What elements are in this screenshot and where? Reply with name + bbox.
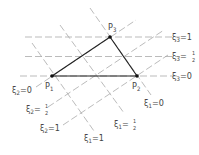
label-xi2-half: ξ2=: [26, 104, 41, 115]
label-xi3-half-num: 1: [192, 50, 195, 56]
xi3-isolines: [20, 37, 180, 76]
label-xi3-0: ξ3=0: [172, 71, 192, 82]
label-p2: P2: [132, 81, 140, 92]
triangle-area-coordinates-diagram: P1 P2 P3 ξ3=1 ξ3= 1 2 ξ3=0 ξ2=0 ξ2= 1 2 …: [0, 0, 199, 155]
label-xi2-0: ξ2=0: [12, 85, 32, 96]
label-xi1-0: ξ1=0: [144, 98, 164, 109]
label-xi3-half: ξ3=: [172, 51, 187, 62]
label-xi3-1: ξ3=1: [172, 32, 192, 43]
vertex-p1: [50, 74, 54, 78]
label-xi1-1: ξ1=1: [84, 133, 104, 144]
label-xi2-half-num: 1: [45, 103, 48, 109]
label-xi1-half-num: 1: [133, 118, 136, 124]
label-p1: P1: [45, 81, 53, 92]
label-xi1-half-den: 2: [133, 125, 136, 131]
label-xi3-half-den: 2: [192, 57, 195, 63]
label-p3: P3: [108, 22, 116, 33]
xi2-isolines: [36, 20, 168, 125]
vertex-p3: [108, 35, 112, 39]
vertex-p2: [135, 74, 139, 78]
label-xi1-half: ξ1=: [114, 119, 129, 130]
label-xi2-half-den: 2: [45, 110, 48, 116]
label-xi2-1: ξ2=1: [40, 123, 60, 134]
